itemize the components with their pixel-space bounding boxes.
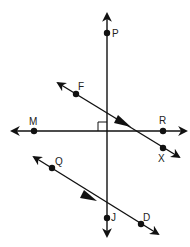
right-angle-mark	[98, 122, 107, 131]
label-m: M	[29, 116, 37, 127]
geometry-diagram: P J M R F X Q D	[0, 0, 190, 247]
label-x: X	[158, 153, 165, 164]
label-d: D	[143, 212, 150, 223]
point-x	[160, 145, 166, 151]
parallel-arrow-mark-fx	[114, 115, 131, 127]
point-j	[104, 215, 110, 221]
point-p	[104, 30, 110, 36]
label-q: Q	[55, 156, 63, 167]
point-r	[160, 128, 166, 134]
label-f: F	[78, 81, 84, 92]
label-j: J	[111, 212, 116, 223]
label-p: P	[112, 28, 119, 39]
point-m	[31, 128, 37, 134]
diagram-svg: P J M R F X Q D	[0, 0, 190, 247]
label-r: R	[159, 115, 166, 126]
